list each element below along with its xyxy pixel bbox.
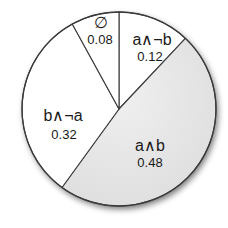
slice-value-b-not-a: 0.32 (51, 127, 76, 142)
slice-value-empty-set: 0.08 (87, 32, 112, 47)
slice-label-a-not-b: a∧¬b (132, 31, 171, 48)
slice-value-a-not-b: 0.12 (137, 49, 162, 64)
slice-value-a-and-b: 0.48 (137, 155, 162, 170)
slice-a-and-b: a∧b 0.48 (135, 137, 165, 170)
slice-label-empty-set: ∅ (94, 14, 108, 31)
slice-label-a-and-b: a∧b (135, 137, 165, 154)
pie-chart: a∧¬b 0.12 a∧b 0.48 b∧¬a 0.32 ∅ 0.08 (0, 0, 228, 228)
slice-label-b-not-a: b∧¬a (43, 107, 82, 124)
